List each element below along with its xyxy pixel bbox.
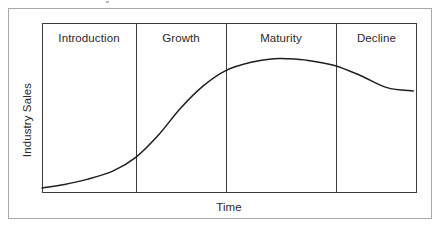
product-life-cycle-figure: Introduction Growth Maturity Decline Ind…: [0, 0, 441, 232]
stage-label-maturity: Maturity: [226, 32, 336, 44]
stage-divider-maturity-decline: [336, 23, 337, 193]
stage-label-decline: Decline: [336, 32, 417, 44]
stage-divider-growth-maturity: [226, 23, 227, 193]
plot-area-border: [42, 23, 417, 193]
x-axis-label: Time: [216, 201, 242, 213]
scan-artifact-speck: [106, 1, 109, 3]
stage-divider-introduction-growth: [136, 23, 137, 193]
y-axis-label: Industry Sales: [21, 83, 33, 157]
stage-label-growth: Growth: [136, 32, 226, 44]
stage-label-introduction: Introduction: [42, 32, 136, 44]
